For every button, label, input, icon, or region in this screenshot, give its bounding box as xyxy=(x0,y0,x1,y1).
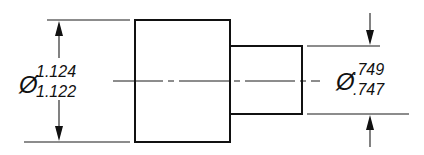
small-diameter-section xyxy=(230,46,302,114)
small-diameter-upper-limit: .749 xyxy=(353,61,384,78)
small-diameter-dimension: Ø .749 .747 xyxy=(335,61,385,98)
left-arrow-up-icon xyxy=(55,21,63,36)
large-diameter-upper-limit: 1.124 xyxy=(36,63,76,80)
small-diameter-lower-limit: .747 xyxy=(353,81,385,98)
large-diameter-dimension: Ø 1.124 1.122 xyxy=(18,63,76,100)
left-arrow-down-icon xyxy=(55,126,63,141)
large-diameter-lower-limit: 1.122 xyxy=(36,83,76,100)
technical-drawing: Ø 1.124 1.122 Ø .749 .747 xyxy=(0,0,424,155)
right-arrow-up-icon xyxy=(366,115,374,130)
right-arrow-down-icon xyxy=(366,30,374,45)
